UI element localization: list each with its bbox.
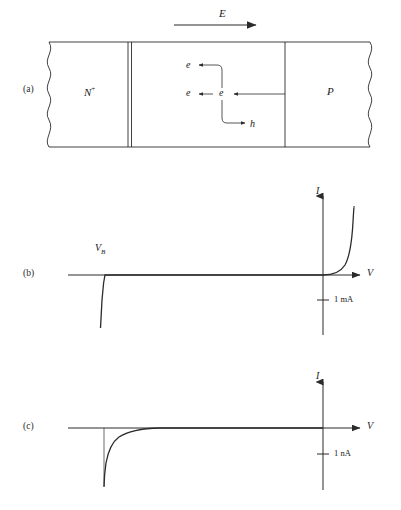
- left-break-line: [47, 42, 50, 147]
- right-break-line: [368, 42, 371, 147]
- panel-b-y-axis-label: I: [316, 186, 319, 196]
- panel-c-tick-label: 1 nA: [334, 449, 351, 458]
- panel-c-y-axis-label: I: [316, 371, 319, 381]
- panel-c-soft-breakdown-curve: [104, 428, 323, 487]
- panel-b-x-axis-label: V: [367, 268, 373, 278]
- breakdown-voltage-label: VB: [95, 243, 105, 256]
- figure-avalanche-breakdown: (a) E N+ P e e e h: [0, 0, 401, 510]
- panel-b-tick-label: 1 mA: [334, 295, 353, 304]
- generated-hole-arrow: [222, 100, 245, 123]
- panel-b-breakdown-curve: [101, 275, 324, 328]
- panel-b-forward-curve: [323, 207, 354, 275]
- panel-c-x-axis-label: V: [367, 421, 373, 431]
- secondary-electron-up-arrow: [199, 65, 222, 88]
- panel-label-b: (b): [23, 268, 34, 278]
- panel-label-c: (c): [23, 421, 34, 431]
